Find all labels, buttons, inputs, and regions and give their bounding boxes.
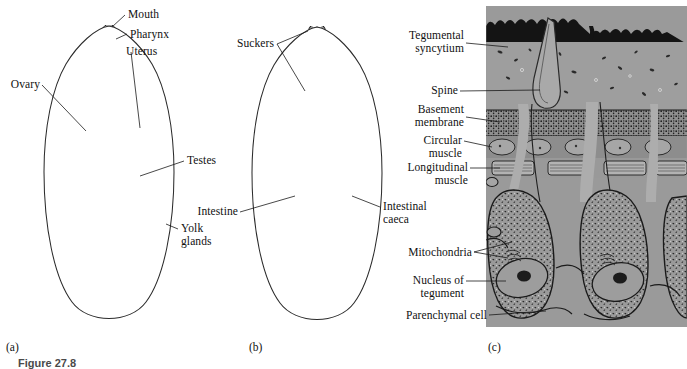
label-tegumental-syncytium: Tegumental syncytium	[400, 29, 464, 54]
leader-suckers-oral	[277, 31, 308, 44]
label-circular-muscle: Circular muscle	[398, 134, 462, 159]
label-mouth: Mouth	[128, 8, 159, 21]
leader-intestinal-caeca	[352, 196, 380, 207]
panel-label-a: (a)	[6, 341, 19, 353]
label-spine: Spine	[400, 84, 458, 97]
leader-ovary	[42, 85, 86, 131]
label-longitudinal-muscle: Longitudinal muscle	[390, 161, 468, 186]
label-testes: Testes	[187, 154, 216, 167]
leader-mitochondria-2	[474, 252, 508, 258]
leader-spine	[460, 90, 540, 91]
label-ovary: Ovary	[0, 78, 40, 91]
leader-tegumental-syncytium	[466, 43, 508, 47]
label-parenchymal-cell: Parenchymal cell	[388, 309, 487, 322]
leader-mitochondria-1	[474, 242, 512, 252]
label-suckers: Suckers	[218, 37, 274, 50]
label-intestine: Intestine	[180, 205, 238, 218]
leader-circular-muscle	[464, 141, 492, 147]
leader-testes	[140, 161, 184, 176]
leader-basement-membrane	[466, 117, 500, 122]
panel-label-c: (c)	[488, 341, 501, 353]
label-pharynx: Pharynx	[130, 28, 169, 41]
leader-suckers-ventral	[277, 44, 305, 91]
panel-label-b: (b)	[249, 341, 262, 353]
leader-intestine	[240, 196, 295, 212]
leader-yolk-glands	[166, 224, 178, 229]
leader-mouth	[112, 15, 125, 27]
leader-uterus	[131, 52, 140, 128]
label-intestinal-caeca: Intestinal caeca	[383, 200, 427, 225]
leader-pharynx	[116, 34, 127, 39]
label-yolk-glands: Yolk glands	[181, 222, 212, 247]
label-basement-membrane: Basement membrane	[396, 103, 464, 128]
figure-caption: Figure 27.8	[18, 357, 76, 369]
label-mitochondria: Mitochondria	[396, 246, 472, 259]
leader-parenchymal-cell	[489, 311, 546, 315]
label-uterus: Uterus	[126, 45, 157, 58]
label-nucleus-of-tegument: Nucleus of tegument	[398, 274, 464, 299]
